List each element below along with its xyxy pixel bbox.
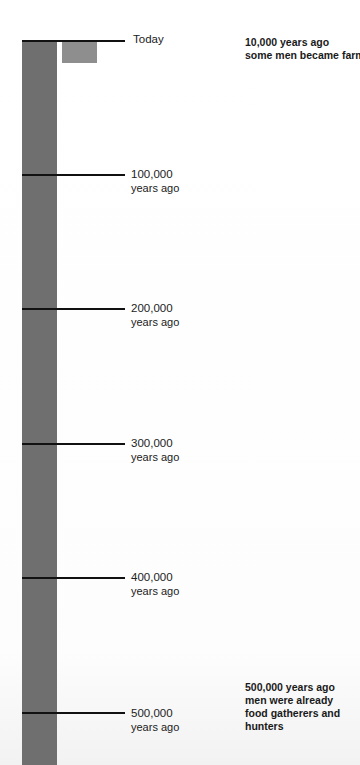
tick-label-100000: 100,000 years ago [131, 167, 179, 195]
tick-value: 100,000 [131, 167, 179, 181]
tick-label-400000: 400,000 years ago [131, 570, 179, 598]
hunters-gatherers-bar [22, 42, 57, 765]
tick-value: 300,000 [131, 436, 179, 450]
tick-today [22, 40, 125, 42]
annotation-hunters: 500,000 years ago men were already food … [245, 681, 360, 733]
tick-unit: years ago [131, 181, 179, 195]
tick-value: 500,000 [131, 706, 179, 720]
annotation-farmers: 10,000 years ago some men became farmers [245, 36, 360, 62]
tick-unit: years ago [131, 584, 179, 598]
tick-unit: years ago [131, 315, 179, 329]
tick-300000 [22, 443, 125, 445]
tick-value: 400,000 [131, 570, 179, 584]
tick-label-today: Today [133, 33, 164, 45]
tick-value: 200,000 [131, 301, 179, 315]
tick-label-200000: 200,000 years ago [131, 301, 179, 329]
tick-200000 [22, 308, 125, 310]
tick-400000 [22, 577, 125, 579]
tick-unit: years ago [131, 450, 179, 464]
tick-label-300000: 300,000 years ago [131, 436, 179, 464]
tick-100000 [22, 174, 125, 176]
tick-500000 [22, 712, 125, 714]
tick-unit: years ago [131, 720, 179, 734]
farmers-bar [62, 42, 97, 63]
tick-label-500000: 500,000 years ago [131, 706, 179, 734]
